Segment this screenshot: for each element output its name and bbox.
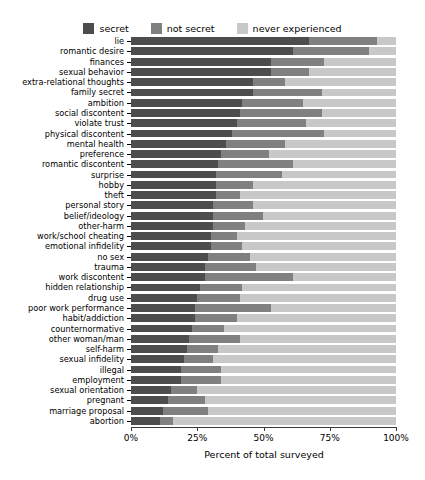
bar-row[interactable]	[131, 171, 396, 179]
bar-segment-not-secret	[205, 263, 255, 271]
bar-row[interactable]	[131, 181, 396, 189]
bar-row[interactable]	[131, 417, 396, 425]
bar-row[interactable]	[131, 89, 396, 97]
bar-row[interactable]	[131, 335, 396, 343]
bar-row[interactable]	[131, 253, 396, 261]
bar-segment-secret	[131, 376, 181, 384]
bar-row[interactable]	[131, 396, 396, 404]
bar-row[interactable]	[131, 109, 396, 117]
bar-segment-secret	[131, 191, 216, 199]
bar-row[interactable]	[131, 304, 396, 312]
bar-segment-never-experienced	[324, 58, 396, 66]
bar-segment-secret	[131, 345, 187, 353]
bar-row[interactable]	[131, 201, 396, 209]
bar-row[interactable]	[131, 242, 396, 250]
bar-segment-secret	[131, 366, 181, 374]
bars-container	[131, 36, 396, 426]
bar-segment-never-experienced	[309, 68, 396, 76]
bar-row[interactable]	[131, 212, 396, 220]
bar-segment-secret	[131, 140, 226, 148]
x-tick-mark	[197, 427, 198, 431]
bar-row[interactable]	[131, 407, 396, 415]
legend-entry-never-experienced[interactable]: never experienced	[237, 23, 342, 34]
y-tick-label: sexual orientation	[50, 386, 124, 394]
bar-row[interactable]	[131, 263, 396, 271]
legend-swatch-icon	[83, 23, 94, 34]
bar-row[interactable]	[131, 284, 396, 292]
bar-segment-never-experienced	[218, 345, 396, 353]
bar-segment-never-experienced	[242, 242, 396, 250]
bar-row[interactable]	[131, 119, 396, 127]
bar-segment-not-secret	[168, 396, 205, 404]
bar-row[interactable]	[131, 376, 396, 384]
bar-row[interactable]	[131, 273, 396, 281]
bar-segment-not-secret	[240, 109, 322, 117]
y-tick-label: theft	[105, 191, 124, 199]
bar-segment-not-secret	[293, 47, 370, 55]
legend-entry-not-secret[interactable]: not secret	[151, 23, 215, 34]
bar-row[interactable]	[131, 99, 396, 107]
bar-segment-never-experienced	[269, 150, 396, 158]
bar-row[interactable]	[131, 386, 396, 394]
bar-row[interactable]	[131, 47, 396, 55]
bar-row[interactable]	[131, 345, 396, 353]
bar-segment-secret	[131, 407, 163, 415]
bar-segment-not-secret	[221, 150, 269, 158]
legend-swatch-icon	[237, 23, 248, 34]
y-tick-label: preference	[80, 150, 124, 158]
bar-row[interactable]	[131, 191, 396, 199]
bar-segment-not-secret	[213, 222, 245, 230]
bar-segment-secret	[131, 212, 213, 220]
bar-segment-secret	[131, 242, 211, 250]
bar-row[interactable]	[131, 366, 396, 374]
y-tick-label: romantic discontent	[42, 160, 124, 168]
bar-segment-not-secret	[216, 171, 282, 179]
chart-legend: secretnot secretnever experienced	[0, 20, 425, 36]
bar-segment-never-experienced	[240, 335, 396, 343]
bar-row[interactable]	[131, 37, 396, 45]
bar-segment-never-experienced	[322, 109, 396, 117]
bar-segment-never-experienced	[245, 222, 396, 230]
bar-segment-never-experienced	[369, 47, 396, 55]
y-tick-label: work discontent	[59, 273, 125, 281]
bar-row[interactable]	[131, 58, 396, 66]
y-tick-label: habit/addiction	[62, 314, 124, 322]
y-tick-label: violate trust	[74, 119, 124, 127]
bar-row[interactable]	[131, 232, 396, 240]
bar-segment-not-secret	[216, 181, 253, 189]
bar-segment-secret	[131, 58, 271, 66]
y-tick-label: poor work performance	[28, 304, 124, 312]
bar-row[interactable]	[131, 294, 396, 302]
bar-segment-secret	[131, 119, 237, 127]
bar-segment-never-experienced	[293, 160, 396, 168]
bar-row[interactable]	[131, 160, 396, 168]
bar-row[interactable]	[131, 130, 396, 138]
bar-segment-secret	[131, 284, 200, 292]
bar-segment-not-secret	[195, 314, 237, 322]
legend-entry-secret[interactable]: secret	[83, 23, 128, 34]
bar-segment-secret	[131, 263, 205, 271]
bar-segment-not-secret	[184, 355, 213, 363]
bar-segment-never-experienced	[285, 140, 396, 148]
bar-row[interactable]	[131, 325, 396, 333]
bar-row[interactable]	[131, 68, 396, 76]
bar-row[interactable]	[131, 314, 396, 322]
x-tick-mark	[396, 427, 397, 431]
bar-segment-never-experienced	[250, 253, 396, 261]
bar-segment-not-secret	[218, 160, 292, 168]
bar-segment-not-secret	[197, 294, 239, 302]
bar-row[interactable]	[131, 150, 396, 158]
bar-row[interactable]	[131, 140, 396, 148]
bar-segment-secret	[131, 253, 208, 261]
bar-row[interactable]	[131, 222, 396, 230]
bar-segment-not-secret	[309, 37, 378, 45]
bar-row[interactable]	[131, 78, 396, 86]
bar-segment-secret	[131, 150, 221, 158]
bar-segment-secret	[131, 335, 189, 343]
y-tick-label: lie	[114, 37, 124, 45]
bar-segment-secret	[131, 68, 271, 76]
bar-row[interactable]	[131, 355, 396, 363]
bar-segment-never-experienced	[240, 294, 396, 302]
y-tick-label: family secret	[71, 88, 124, 96]
y-tick-label: belief/ideology	[64, 211, 124, 219]
